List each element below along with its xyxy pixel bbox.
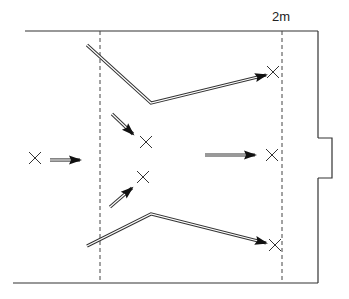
cross-marker-icon (137, 171, 149, 183)
lower-diagonal-arrow-icon (110, 187, 134, 207)
middle-arrow-icon (205, 151, 257, 160)
dashed-boundaries (100, 31, 282, 283)
distance-label: 2m (272, 9, 290, 24)
cross-marker-icon (267, 66, 279, 78)
upper-diagonal-arrow-icon (112, 114, 134, 135)
cross-marker-icon (266, 149, 278, 161)
upper-path-arrow-icon (87, 45, 268, 103)
lower-path-arrow-icon (87, 214, 268, 246)
start-arrow-icon (50, 156, 82, 165)
diagram-canvas (0, 0, 349, 299)
room-walls (13, 31, 332, 283)
cross-marker-icon (29, 152, 41, 164)
flow-arrows (50, 45, 268, 246)
cross-marker-icon (269, 239, 281, 251)
cross-marker-icon (140, 136, 152, 148)
wall-notch (318, 138, 332, 178)
